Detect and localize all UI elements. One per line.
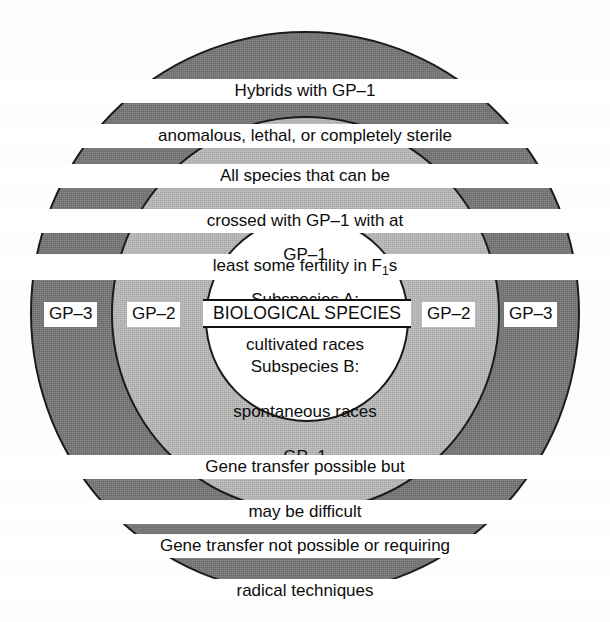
outer-ring-top-caption-line1: Hybrids with GP–1 — [0, 79, 610, 103]
outer-ring-bottom-caption-line2: radical techniques — [0, 579, 610, 603]
inner-circle-gp1-label-top: GP–1 — [0, 243, 610, 267]
middle-ring-top-caption-line1: All species that can be — [0, 164, 610, 188]
gp2-tag-left: GP–2 — [127, 302, 180, 327]
inner-circle-spontaneous-races: spontaneous races — [0, 400, 610, 424]
biological-species-label: BIOLOGICAL SPECIES — [213, 303, 401, 324]
gp3-tag-right: GP–3 — [504, 302, 557, 327]
gp2-tag-right: GP–2 — [422, 302, 475, 327]
outer-ring-bottom-caption: Gene transfer not possible or requiring … — [0, 513, 610, 622]
outer-ring-bottom-caption-line1: Gene transfer not possible or requiring — [0, 534, 610, 558]
inner-circle-subspecies-b: Subspecies B: — [0, 355, 610, 379]
biological-species-band: BIOLOGICAL SPECIES — [203, 299, 411, 328]
gp3-tag-left: GP–3 — [44, 302, 97, 327]
gene-pool-diagram: Hybrids with GP–1 anomalous, lethal, or … — [0, 0, 610, 622]
middle-ring-bottom-caption-line1: Gene transfer possible but — [0, 455, 610, 479]
